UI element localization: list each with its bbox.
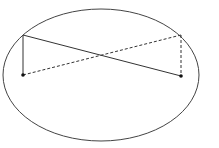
point-bottom-right — [179, 74, 183, 78]
point-bottom-left — [21, 73, 25, 77]
points — [21, 73, 183, 78]
geometry-diagram — [0, 0, 219, 148]
ellipse — [3, 9, 199, 141]
